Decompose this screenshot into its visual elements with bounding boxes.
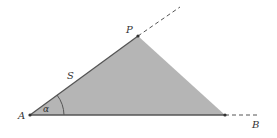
point-A <box>28 113 31 116</box>
label-B: B <box>251 119 259 130</box>
shaded-triangle <box>30 36 225 115</box>
label-P: P <box>125 24 133 35</box>
label-side-S: S <box>67 70 74 81</box>
point-P <box>136 34 139 37</box>
triangle-diagram: A P B S α <box>0 0 277 138</box>
point-C <box>223 113 226 116</box>
label-A: A <box>17 110 25 121</box>
label-angle-alpha: α <box>43 104 49 114</box>
ray-P-dashed <box>138 7 180 36</box>
